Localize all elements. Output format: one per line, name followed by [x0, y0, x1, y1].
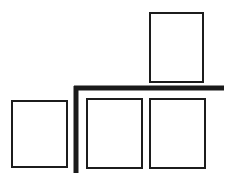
bottom-right-rectangle: [150, 99, 205, 168]
bottom-middle-rectangle: [87, 99, 142, 168]
diagram-svg: [0, 0, 234, 190]
diagram-canvas: [0, 0, 234, 190]
bottom-left-rectangle: [12, 101, 67, 167]
top-right-rectangle: [150, 13, 203, 82]
